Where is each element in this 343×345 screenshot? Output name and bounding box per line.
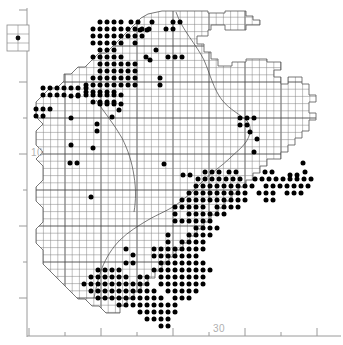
- occurrence-dot: [131, 261, 136, 266]
- occurrence-dot: [98, 93, 103, 98]
- occurrence-dot: [187, 296, 192, 301]
- occurrence-dot: [217, 177, 222, 182]
- occurrence-dot: [91, 100, 96, 105]
- occurrence-dot: [222, 184, 227, 189]
- occurrence-dot: [96, 275, 101, 280]
- occurrence-dot: [133, 62, 138, 67]
- occurrence-dot: [105, 83, 110, 88]
- occurrence-dot: [201, 233, 206, 238]
- occurrence-dot: [41, 107, 46, 112]
- occurrence-dot: [180, 261, 185, 266]
- occurrence-dot: [166, 317, 171, 322]
- occurrence-dot: [194, 247, 199, 252]
- occurrence-dot: [187, 268, 192, 273]
- occurrence-dot: [105, 62, 110, 67]
- occurrence-dot: [180, 247, 185, 252]
- occurrence-dot: [302, 177, 307, 182]
- occurrence-dot: [222, 212, 227, 217]
- occurrence-dot: [194, 275, 199, 280]
- occurrence-dot: [180, 268, 185, 273]
- occurrence-dot: [159, 303, 164, 308]
- occurrence-dot: [117, 303, 122, 308]
- occurrence-dot: [91, 146, 96, 151]
- occurrence-dot: [138, 296, 143, 301]
- occurrence-dot: [194, 233, 199, 238]
- occurrence-dot: [126, 27, 131, 32]
- occurrence-dot: [201, 198, 206, 203]
- occurrence-dot: [238, 177, 243, 182]
- occurrence-dot: [181, 173, 186, 178]
- filled-circle-icon: [16, 36, 21, 41]
- occurrence-dot: [243, 191, 248, 196]
- occurrence-dot: [253, 177, 258, 182]
- occurrence-dot: [158, 76, 163, 81]
- occurrence-dot: [215, 191, 220, 196]
- occurrence-dot: [201, 191, 206, 196]
- occurrence-dot: [250, 184, 255, 189]
- occurrence-dot: [98, 83, 103, 88]
- occurrence-dot: [222, 205, 227, 210]
- occurrence-dot: [171, 20, 176, 25]
- occurrence-dot: [152, 289, 157, 294]
- occurrence-dot: [301, 161, 306, 166]
- occurrence-dot: [215, 184, 220, 189]
- occurrence-dot: [145, 303, 150, 308]
- occurrence-dot: [152, 317, 157, 322]
- occurrence-dot: [48, 107, 53, 112]
- occurrence-dot: [105, 76, 110, 81]
- occurrence-dot: [145, 296, 150, 301]
- occurrence-dot: [260, 177, 265, 182]
- occurrence-dot: [112, 27, 117, 32]
- occurrence-dot: [187, 233, 192, 238]
- occurrence-dot: [194, 282, 199, 287]
- occurrence-dot: [236, 198, 241, 203]
- occurrence-dot: [48, 93, 53, 98]
- occurrence-dot: [208, 226, 213, 231]
- occurrence-dot: [187, 212, 192, 217]
- occurrence-dot: [166, 324, 171, 329]
- occurrence-dot: [112, 69, 117, 74]
- occurrence-dot: [187, 205, 192, 210]
- occurrence-dot: [173, 310, 178, 315]
- occurrence-dot: [110, 268, 115, 273]
- occurrence-dot: [41, 93, 46, 98]
- occurrence-dot: [201, 205, 206, 210]
- occurrence-dot: [196, 177, 201, 182]
- occurrence-dot: [173, 282, 178, 287]
- occurrence-dot: [295, 177, 300, 182]
- occurrence-dot: [288, 177, 293, 182]
- y-axis-tick-label: 10: [31, 147, 43, 158]
- occurrence-dot: [194, 184, 199, 189]
- occurrence-dot: [229, 205, 234, 210]
- occurrence-dot: [238, 116, 243, 121]
- occurrence-dot: [166, 247, 171, 252]
- occurrence-dot: [159, 268, 164, 273]
- occurrence-dot: [224, 177, 229, 182]
- occurrence-dot: [173, 296, 178, 301]
- occurrence-dot: [103, 289, 108, 294]
- occurrence-dot: [171, 27, 176, 32]
- occurrence-dot: [138, 310, 143, 315]
- occurrence-dot: [194, 289, 199, 294]
- occurrence-dot: [103, 282, 108, 287]
- occurrence-dot: [194, 268, 199, 273]
- occurrence-dot: [299, 191, 304, 196]
- occurrence-dot: [112, 93, 117, 98]
- occurrence-dot: [112, 83, 117, 88]
- occurrence-dot: [187, 261, 192, 266]
- occurrence-dot: [89, 282, 94, 287]
- occurrence-dot: [112, 48, 117, 53]
- occurrence-dot: [173, 55, 178, 60]
- occurrence-dot: [105, 93, 110, 98]
- occurrence-dot: [98, 20, 103, 25]
- occurrence-dot: [285, 191, 290, 196]
- occurrence-dot: [55, 86, 60, 91]
- occurrence-dot: [119, 69, 124, 74]
- occurrence-dot: [131, 282, 136, 287]
- occurrence-dot: [194, 226, 199, 231]
- occurrence-dot: [138, 275, 143, 280]
- occurrence-dot: [117, 108, 122, 113]
- occurrence-dot: [201, 275, 206, 280]
- occurrence-dot: [84, 93, 89, 98]
- occurrence-dot: [180, 275, 185, 280]
